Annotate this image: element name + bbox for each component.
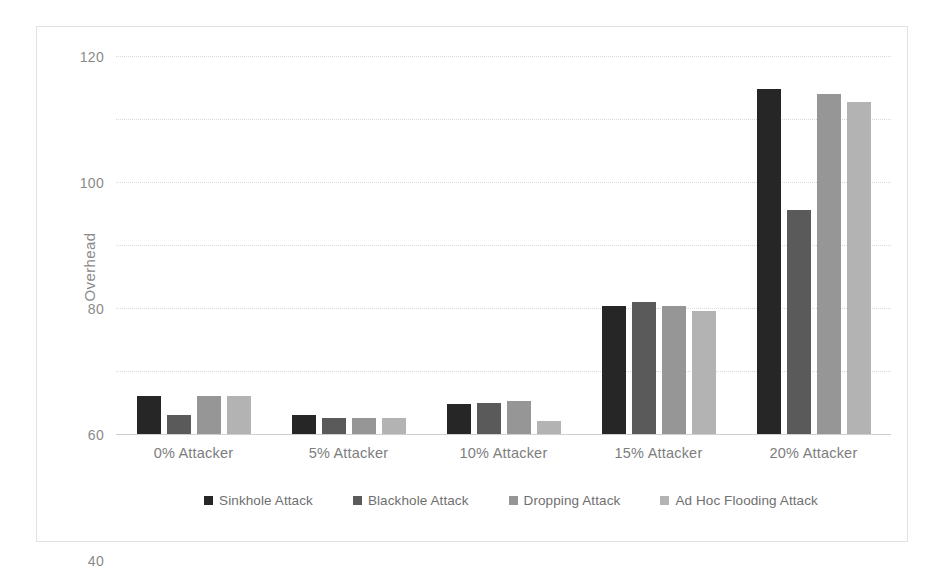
x-tick-label: 5% Attacker (271, 445, 426, 461)
y-tick-label: 60 (88, 427, 104, 443)
legend-label: Sinkhole Attack (219, 493, 313, 508)
bar[interactable] (507, 401, 531, 434)
bar[interactable] (197, 396, 221, 434)
bar[interactable] (537, 421, 561, 434)
x-tick-label: 10% Attacker (426, 445, 581, 461)
bar[interactable] (477, 403, 501, 435)
y-axis-title: Overhead (81, 232, 98, 301)
bar-groups (116, 56, 891, 434)
bar[interactable] (662, 306, 686, 434)
chart-legend: Sinkhole AttackBlackhole AttackDropping … (116, 493, 906, 508)
bar-group (736, 56, 891, 434)
legend-swatch-icon (204, 496, 213, 505)
bar[interactable] (602, 306, 626, 434)
bar[interactable] (692, 311, 716, 434)
bar-group (581, 56, 736, 434)
legend-item[interactable]: Sinkhole Attack (204, 493, 313, 508)
bar-group (116, 56, 271, 434)
bar[interactable] (632, 302, 656, 434)
bar[interactable] (787, 210, 811, 434)
plot-area: 020406080100120 (116, 56, 891, 434)
chart-frame: Overhead 020406080100120 0% Attacker5% A… (36, 26, 908, 542)
x-axis-labels: 0% Attacker5% Attacker10% Attacker15% At… (116, 445, 891, 461)
legend-label: Dropping Attack (524, 493, 621, 508)
bar[interactable] (382, 418, 406, 434)
x-tick-label: 15% Attacker (581, 445, 736, 461)
bar[interactable] (757, 89, 781, 434)
legend-item[interactable]: Ad Hoc Flooding Attack (660, 493, 818, 508)
legend-swatch-icon (660, 496, 669, 505)
legend-swatch-icon (509, 496, 518, 505)
x-tick-label: 0% Attacker (116, 445, 271, 461)
bar[interactable] (447, 404, 471, 434)
x-tick-label: 20% Attacker (736, 445, 891, 461)
legend-label: Blackhole Attack (368, 493, 469, 508)
bar[interactable] (167, 415, 191, 434)
y-tick-label: 120 (80, 49, 104, 65)
y-tick-label: 40 (88, 553, 104, 569)
legend-item[interactable]: Dropping Attack (509, 493, 621, 508)
bar[interactable] (227, 396, 251, 434)
bar[interactable] (137, 396, 161, 434)
x-axis-line (116, 434, 891, 435)
legend-label: Ad Hoc Flooding Attack (675, 493, 818, 508)
bar[interactable] (817, 94, 841, 434)
legend-item[interactable]: Blackhole Attack (353, 493, 469, 508)
bar[interactable] (847, 102, 871, 434)
bar-group (271, 56, 426, 434)
bar[interactable] (352, 418, 376, 434)
y-tick-label: 80 (88, 301, 104, 317)
bar[interactable] (292, 415, 316, 434)
legend-swatch-icon (353, 496, 362, 505)
bar[interactable] (322, 418, 346, 434)
y-tick-label: 100 (80, 175, 104, 191)
bar-group (426, 56, 581, 434)
